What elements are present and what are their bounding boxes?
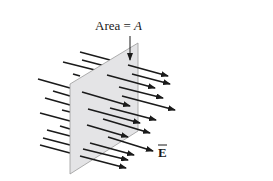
field-label: E — [158, 145, 167, 160]
electric-flux-diagram: Area = A E — [0, 0, 273, 181]
area-label: Area = A — [95, 18, 142, 33]
